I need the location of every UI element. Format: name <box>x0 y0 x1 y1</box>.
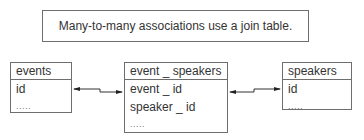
connector-events-join <box>74 89 122 92</box>
arrowhead-left-icon <box>229 90 236 94</box>
arrowhead-right-icon <box>274 87 281 91</box>
arrowhead-right-icon <box>116 90 123 94</box>
arrowhead-left-icon <box>73 87 80 91</box>
connector-join-speakers <box>230 89 280 92</box>
connector-lines <box>0 0 364 140</box>
